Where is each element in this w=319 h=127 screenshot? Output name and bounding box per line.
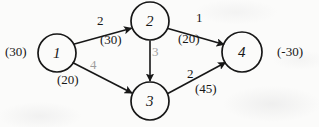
supply-label: (30) (5, 45, 27, 58)
node-label-4: 4 (238, 45, 246, 60)
node-label-2: 2 (146, 14, 154, 29)
node-label-1: 1 (53, 46, 61, 61)
edge-cost-1-to-3: 4 (90, 58, 97, 71)
demand-label: (-30) (277, 45, 303, 58)
network-flow-diagram: 1 2 3 4 2 (30) 4 (20) 3 1 (20) 2 (45) (3… (0, 0, 319, 127)
edge-capacity-2-to-4: (20) (178, 32, 200, 45)
edge-cost-3-to-4: 2 (187, 67, 194, 80)
edge-cost-2-to-3: 3 (152, 45, 159, 58)
node-label-3: 3 (146, 94, 154, 109)
edge-capacity-3-to-4: (45) (195, 82, 217, 95)
diagram-canvas (0, 0, 319, 127)
edge-cost-1-to-2: 2 (97, 14, 104, 27)
edge-cost-2-to-4: 1 (196, 11, 203, 24)
edge-capacity-1-to-3: (20) (57, 73, 79, 86)
edge-1-to-3 (73, 63, 133, 94)
edge-capacity-1-to-2: (30) (100, 33, 122, 46)
